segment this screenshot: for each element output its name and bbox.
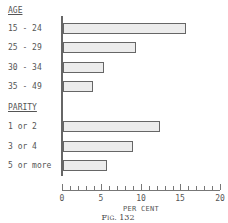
- category-label: 5 or more: [8, 161, 51, 170]
- x-axis-title: PER CENT: [123, 205, 159, 213]
- category-label: 25 - 29: [8, 43, 42, 52]
- bar-age-30-34: [63, 62, 104, 73]
- x-tick-label: 10: [136, 194, 146, 203]
- bar-parity-1-2: [63, 121, 160, 132]
- category-label: 15 - 24: [8, 24, 42, 33]
- figure-caption: Fig. 132: [101, 213, 134, 222]
- bar-age-15-24: [63, 23, 186, 34]
- parity-heading: PARITY: [8, 103, 37, 112]
- category-label: 30 - 34: [8, 63, 42, 72]
- y-axis-line: [61, 16, 63, 176]
- x-tick-label: 20: [215, 194, 225, 203]
- bar-parity-5-more: [63, 160, 107, 171]
- bar-age-25-29: [63, 42, 136, 53]
- category-label: 1 or 2: [8, 122, 37, 131]
- bar-age-35-49: [63, 81, 93, 92]
- x-tick-label: 0: [60, 194, 65, 203]
- category-label: 35 - 49: [8, 82, 42, 91]
- bar-parity-3-4: [63, 141, 133, 152]
- category-label: 3 or 4: [8, 142, 37, 151]
- age-heading: AGE: [8, 6, 22, 15]
- x-tick-label: 15: [175, 194, 185, 203]
- x-axis-line: [62, 190, 220, 191]
- x-tick-label: 5: [99, 194, 104, 203]
